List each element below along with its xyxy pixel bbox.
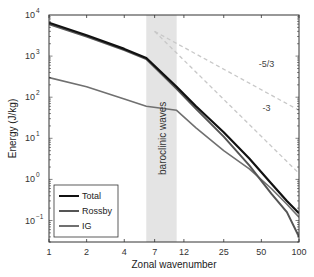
y-tick-label: 10 xyxy=(25,92,35,102)
y-tick-exponent: 0 xyxy=(36,171,40,178)
x-tick-label: 4 xyxy=(122,247,127,257)
y-axis-label: Energy (J/kg) xyxy=(7,99,18,158)
x-tick-label: 2 xyxy=(84,247,89,257)
legend: TotalRossbyIG xyxy=(54,185,118,237)
x-tick-label: 50 xyxy=(256,247,266,257)
energy-spectrum-chart: 124712255010010−1100101102103104 -5/3-3b… xyxy=(0,0,314,277)
y-tick-label: 10 xyxy=(25,10,35,20)
y-tick-exponent: 3 xyxy=(36,48,40,55)
y-tick-exponent: 4 xyxy=(36,7,40,14)
x-tick-label: 1 xyxy=(46,247,51,257)
legend-label: IG xyxy=(82,221,92,231)
legend-label: Rossby xyxy=(82,206,113,216)
x-tick-label: 7 xyxy=(152,247,157,257)
y-tick-exponent: −1 xyxy=(36,213,44,220)
x-tick-label: 100 xyxy=(291,247,306,257)
slope-label: -5/3 xyxy=(259,59,275,69)
x-tick-label: 12 xyxy=(179,247,189,257)
slope-label: -3 xyxy=(263,103,271,113)
y-tick-label: 10 xyxy=(25,133,35,143)
y-tick-exponent: 1 xyxy=(36,130,40,137)
legend-label: Total xyxy=(82,191,101,201)
y-tick-label: 10 xyxy=(25,51,35,61)
x-axis-label: Zonal wavenumber xyxy=(131,259,217,270)
y-tick-label: 10 xyxy=(25,174,35,184)
x-tick-label: 25 xyxy=(219,247,229,257)
y-tick-label: 10 xyxy=(25,216,35,226)
y-tick-exponent: 2 xyxy=(36,89,40,96)
baroclinic-waves-label: baroclinic waves xyxy=(157,102,168,175)
